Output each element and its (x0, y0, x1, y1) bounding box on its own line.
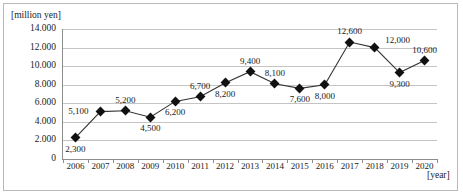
chart-canvas: [million yen] [year] 02.0004.0006.0008.0… (0, 0, 463, 196)
data-point-label: 9,400 (233, 57, 267, 66)
data-point-label: 8,200 (208, 90, 242, 99)
data-point-label: 8,100 (258, 69, 292, 78)
data-point-label: 4,500 (133, 124, 167, 133)
data-point-label: 5,100 (61, 107, 95, 116)
data-point-label: 12,000 (381, 36, 415, 45)
data-point-label: 12,600 (333, 27, 367, 36)
data-point-label: 6,200 (158, 108, 192, 117)
data-point-label: 9,300 (383, 80, 417, 89)
data-point-label: 5,200 (108, 96, 142, 105)
data-point-label: 10,600 (408, 46, 442, 55)
data-point-label: 2,300 (58, 145, 92, 154)
data-point-label: 8,000 (308, 92, 342, 101)
